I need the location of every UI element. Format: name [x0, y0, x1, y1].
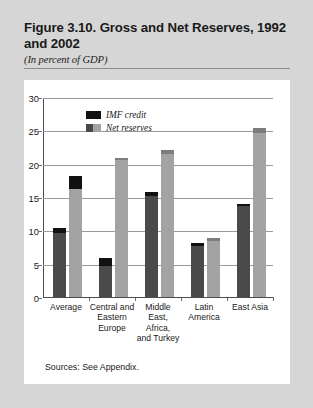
bar-group: [227, 98, 273, 297]
y-axis-tick-mark: [38, 231, 42, 232]
bar-group: [89, 98, 135, 297]
bar-segment-imf-credit: [207, 238, 220, 241]
bar-segment-net-reserves: [237, 206, 250, 297]
bar-group: [181, 98, 227, 297]
y-axis-tick-mark: [38, 165, 42, 166]
figure-header: Figure 3.10. Gross and Net Reserves, 199…: [24, 20, 292, 65]
bar-segment-net-reserves: [145, 196, 158, 297]
bar-segment-imf-credit: [161, 150, 174, 154]
y-axis-tick-mark: [38, 98, 42, 99]
bar-1992: [53, 228, 66, 297]
bar-segment-imf-credit: [99, 258, 112, 265]
bar-segment-net-reserves: [99, 266, 112, 297]
bar-group: [43, 98, 89, 297]
bar-segment-imf-credit: [237, 204, 250, 207]
bar-segment-net-reserves: [253, 133, 266, 297]
x-axis-line: [43, 297, 273, 298]
bar-1992: [237, 204, 250, 297]
chart-panel: 051015202530 IMF credit Net reserves Ave…: [24, 80, 290, 384]
y-axis-tick-mark: [38, 131, 42, 132]
figure-subtitle: (In percent of GDP): [24, 54, 292, 65]
bar-segment-net-reserves: [161, 154, 174, 297]
bar-segment-imf-credit: [53, 228, 66, 233]
plot-area: 051015202530 IMF credit Net reserves: [43, 98, 273, 298]
bar-segment-imf-credit: [191, 243, 204, 246]
source-note: Sources: See Appendix.: [45, 362, 139, 372]
bar-segment-imf-credit: [69, 176, 82, 189]
bar-2002: [69, 176, 82, 297]
bar-group: [135, 98, 181, 297]
page-title: Figure 3.10. Gross and Net Reserves, 199…: [24, 20, 292, 51]
y-axis-tick-mark: [38, 298, 42, 299]
x-axis-labels: AverageCentral andEasternEuropeMiddleEas…: [43, 302, 273, 358]
figure-page: Figure 3.10. Gross and Net Reserves, 199…: [0, 0, 313, 408]
bar-1992: [191, 243, 204, 297]
bar-segment-imf-credit: [253, 128, 266, 133]
bar-1992: [99, 258, 112, 297]
bar-1992: [145, 192, 158, 297]
x-axis-tick-mark: [273, 297, 274, 301]
bar-segment-imf-credit: [145, 192, 158, 195]
bar-2002: [207, 238, 220, 297]
bar-series-container: [43, 98, 273, 297]
bar-segment-net-reserves: [115, 160, 128, 297]
bar-segment-net-reserves: [191, 246, 204, 297]
x-axis-label-east-asia: East Asia: [221, 302, 279, 312]
y-axis-tick-mark: [38, 265, 42, 266]
title-divider: [24, 68, 290, 69]
bar-segment-net-reserves: [53, 233, 66, 297]
bar-2002: [253, 128, 266, 297]
y-axis-tick-mark: [38, 198, 42, 199]
bar-segment-net-reserves: [69, 189, 82, 297]
bar-segment-net-reserves: [207, 241, 220, 297]
bar-segment-imf-credit: [115, 158, 128, 161]
bar-2002: [115, 158, 128, 297]
bar-2002: [161, 150, 174, 297]
